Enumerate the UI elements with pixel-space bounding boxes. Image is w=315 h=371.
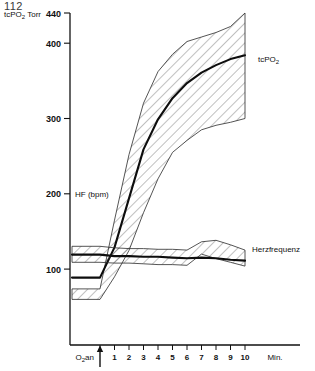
series-label-herzfrequenz: Herzfrequenz xyxy=(252,245,300,254)
y-tick-label: 100 xyxy=(46,265,61,275)
oxygen-event-up-arrow-icon xyxy=(97,346,103,368)
y-tick-label: 440 xyxy=(46,9,61,19)
oxygen-event-label: O2an xyxy=(76,353,94,363)
x-axis-ticks xyxy=(100,345,245,350)
x-tick-label: 10 xyxy=(241,353,250,362)
herzfrequenz-band xyxy=(72,240,245,266)
x-tick-label: 8 xyxy=(214,353,219,362)
y-axis-ticks xyxy=(64,13,70,269)
x-tick-label: 1 xyxy=(112,353,117,362)
x-tick-label: 3 xyxy=(141,353,146,362)
x-tick-label: 7 xyxy=(199,353,204,362)
secondary-axis-label-hf: HF (bpm) xyxy=(75,190,109,199)
x-axis-title: Min. xyxy=(267,353,282,362)
x-tick-label: 2 xyxy=(127,353,132,362)
series-label-tcpo2: tcPO2 xyxy=(258,55,280,65)
y-axis-title: tcPO2 Torr xyxy=(4,10,41,20)
y-tick-label: 400 xyxy=(46,39,61,49)
y-tick-label: 300 xyxy=(46,114,61,124)
y-axis-tick-labels: 440 400 300 200 100 xyxy=(46,9,61,275)
x-tick-label: 5 xyxy=(170,353,175,362)
chart-figure: 440 400 300 200 100 tcPO2 Torr 1 2 3 4 5… xyxy=(0,0,315,371)
x-tick-label: 9 xyxy=(228,353,233,362)
x-tick-label: 4 xyxy=(156,353,161,362)
x-axis-tick-labels: 1 2 3 4 5 6 7 8 9 10 xyxy=(112,353,250,362)
x-tick-label: 6 xyxy=(185,353,190,362)
y-tick-label: 200 xyxy=(46,189,61,199)
